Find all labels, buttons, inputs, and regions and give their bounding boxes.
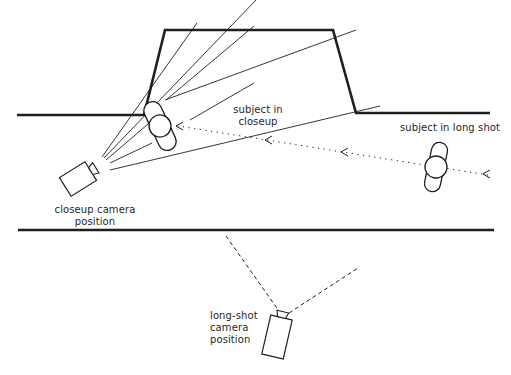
subject-longshot-label: subject in long shot: [400, 122, 500, 134]
arrowhead-icon: [265, 136, 272, 144]
longshot-field-of-view: [226, 236, 358, 313]
subject-closeup-label-line-2: closeup: [218, 116, 298, 128]
closeup-field-of-view: [102, 0, 380, 170]
arrowhead-icon: [341, 148, 348, 156]
longshot-camera-label-line-3: position: [210, 334, 258, 346]
subject-closeup-label-line-1: subject in: [218, 104, 298, 116]
subject-closeup-label: subject in closeup: [218, 104, 298, 128]
longshot-camera-label-line-2: camera: [210, 322, 258, 334]
closeup-camera-icon: [59, 159, 101, 197]
longshot-camera-icon: [262, 309, 294, 359]
longshot-camera-label-line-1: long-shot: [210, 310, 258, 322]
closeup-camera-label-line-1: closeup camera: [50, 204, 140, 216]
closeup-camera-label: closeup camera position: [50, 204, 140, 228]
arrowhead-icon: [176, 122, 183, 130]
set-wall-outline: [17, 30, 490, 115]
closeup-camera-label-line-2: position: [50, 216, 140, 228]
subject-longshot-figure-icon: [420, 140, 452, 193]
arrowhead-icon: [483, 170, 490, 178]
longshot-camera-label: long-shot camera position: [210, 310, 258, 346]
subject-longshot-label-text: subject in long shot: [400, 122, 500, 133]
